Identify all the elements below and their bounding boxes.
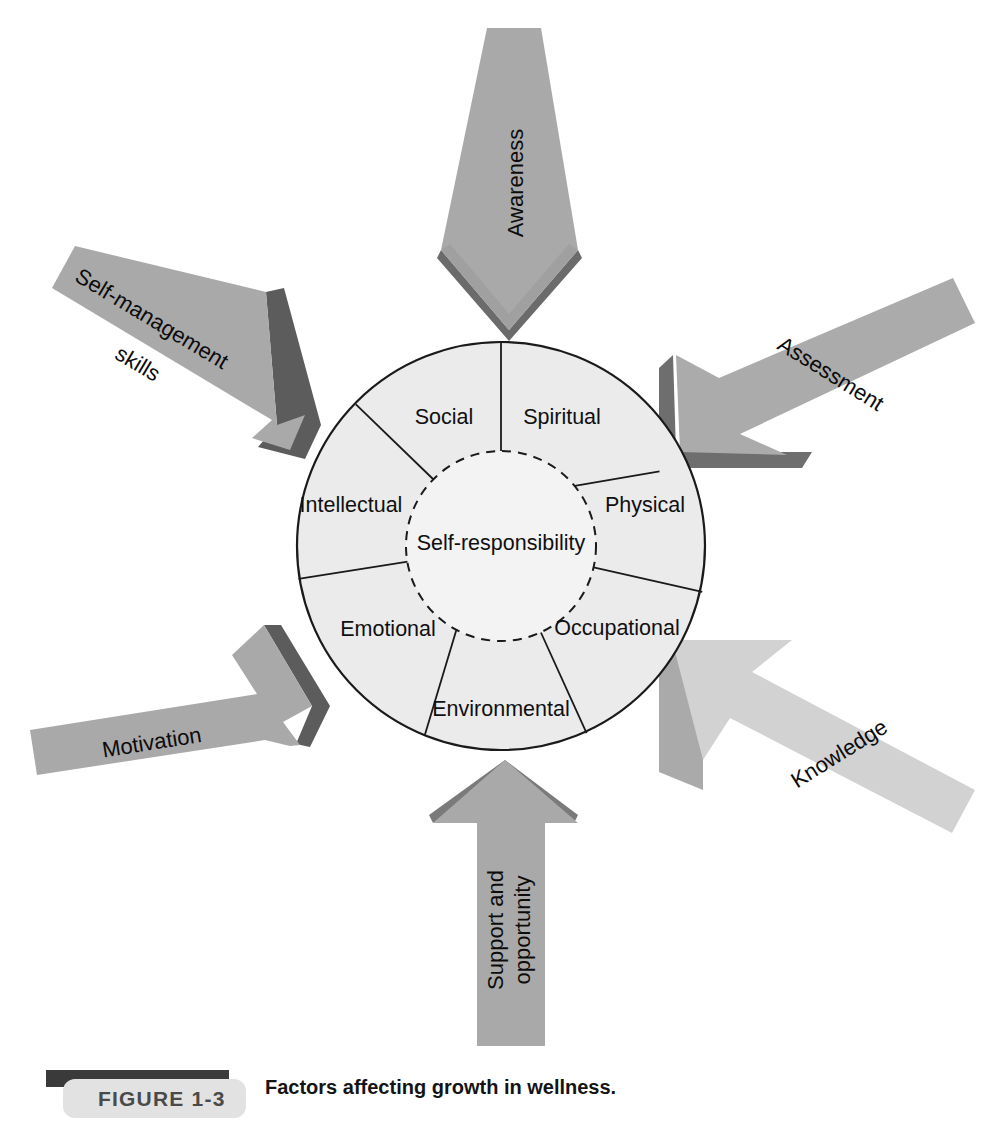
wheel-segment-label-social: Social [415, 405, 474, 429]
wheel-segment-label-environmental: Environmental [432, 697, 569, 721]
arrow-knowledge: Knowledge [659, 640, 975, 833]
figure-container: Awareness Assessment Knowledge Support a… [0, 0, 987, 1137]
arrow-support-and-opportunity: Support and opportunity [429, 760, 578, 1046]
wheel-segment-label-intellectual: Intellectual [300, 493, 403, 517]
wheel-center-label: Self-responsibility [417, 531, 586, 555]
arrow-assessment: Assessment [659, 278, 975, 468]
figure-caption-text: Factors affecting growth in wellness. [265, 1076, 616, 1098]
wheel-segment-label-spiritual: Spiritual [523, 405, 601, 429]
arrow-self-management-skills: Self-management skills [52, 246, 321, 459]
arrow-awareness-label: Awareness [503, 129, 528, 237]
figure-caption: FIGURE 1-3 Factors affecting growth in w… [46, 1070, 616, 1118]
arrow-motivation-body [30, 625, 312, 775]
wellness-wheel-diagram: Awareness Assessment Knowledge Support a… [0, 0, 987, 1137]
figure-badge-label: FIGURE 1-3 [98, 1087, 226, 1110]
wheel-segment-label-physical: Physical [605, 493, 685, 517]
arrow-support-label-line1: Support and [483, 870, 508, 990]
wheel-segment-label-emotional: Emotional [340, 617, 436, 641]
arrow-awareness: Awareness [437, 28, 582, 341]
arrow-motivation: Motivation [30, 625, 330, 775]
wellness-wheel: Self-responsibility Spiritual Physical O… [297, 342, 705, 750]
wheel-segment-label-occupational: Occupational [554, 616, 680, 640]
arrow-support-label-line2: opportunity [510, 876, 535, 985]
arrow-knowledge-body [672, 640, 975, 833]
